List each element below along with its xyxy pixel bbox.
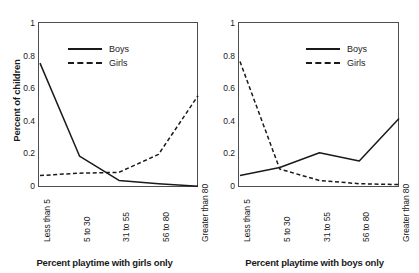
x-tick-label: 5 to 30 bbox=[83, 217, 92, 242]
y-tick-label: 0.6 bbox=[13, 84, 35, 93]
x-tick-label: Less than 5 bbox=[43, 199, 52, 242]
legend-label: Girls bbox=[109, 56, 128, 70]
y-tick-label: 0.4 bbox=[13, 117, 35, 126]
x-tick-label: Greater than 80 bbox=[402, 184, 411, 242]
chart-panel-left: Percent of children 00.20.40.60.81 Less … bbox=[0, 0, 209, 273]
y-tick-label: 0.2 bbox=[213, 149, 235, 158]
x-tick-label: 31 to 55 bbox=[323, 212, 332, 242]
x-axis-label-right: Percent playtime with boys only bbox=[210, 257, 419, 268]
series-line-boys bbox=[40, 63, 198, 186]
x-tick-label: 56 to 80 bbox=[362, 212, 371, 242]
legend-label: Girls bbox=[347, 56, 366, 70]
x-tick-label: 31 to 55 bbox=[122, 212, 131, 242]
y-tick-label: 1 bbox=[13, 19, 35, 28]
legend-label: Boys bbox=[109, 42, 129, 56]
x-tick-label: 5 to 30 bbox=[283, 217, 292, 242]
y-tick-label: 0 bbox=[13, 182, 35, 191]
chart-panel-right: 00.20.40.60.81 Less than 55 to 3031 to 5… bbox=[210, 0, 419, 273]
x-tick-label: Less than 5 bbox=[243, 199, 252, 242]
legend-key-dashed-icon bbox=[306, 62, 340, 64]
y-tick-label: 0.8 bbox=[13, 52, 35, 61]
legend-key-solid-icon bbox=[306, 48, 340, 50]
x-tick-label: Greater than 80 bbox=[201, 184, 210, 242]
legend-key-solid-icon bbox=[68, 48, 102, 50]
plot-frame-right bbox=[238, 22, 399, 187]
legend-label: Boys bbox=[347, 42, 367, 56]
legend-key-dashed-icon bbox=[68, 62, 102, 64]
y-tick-label: 0.2 bbox=[13, 149, 35, 158]
x-axis-label-left: Percent playtime with girls only bbox=[0, 257, 209, 268]
series-line-girls bbox=[40, 96, 198, 176]
y-tick-label: 0.8 bbox=[213, 52, 235, 61]
series-line-girls bbox=[240, 61, 399, 184]
figure: Percent of children 00.20.40.60.81 Less … bbox=[0, 0, 419, 273]
y-tick-label: 0 bbox=[213, 182, 235, 191]
y-tick-label: 0.6 bbox=[213, 84, 235, 93]
y-tick-label: 1 bbox=[213, 19, 235, 28]
x-tick-label: 56 to 80 bbox=[162, 212, 171, 242]
y-tick-label: 0.4 bbox=[213, 117, 235, 126]
